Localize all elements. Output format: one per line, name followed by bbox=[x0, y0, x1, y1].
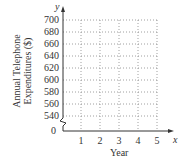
y-axis-symbol: y bbox=[55, 2, 59, 12]
y-tick-640: 640 bbox=[33, 51, 59, 61]
x-tick-5: 5 bbox=[151, 136, 163, 146]
y-tick-700: 700 bbox=[33, 15, 59, 25]
axis-break-icon bbox=[60, 118, 66, 126]
x-tick-3: 3 bbox=[113, 136, 125, 146]
y-axis-arrow-icon bbox=[61, 6, 65, 12]
y-tick-620: 620 bbox=[33, 63, 59, 73]
x-axis-arrow-icon bbox=[168, 129, 174, 133]
origin-label: 0 bbox=[51, 126, 56, 136]
x-axis-label: Year bbox=[110, 148, 128, 158]
x-tick-1: 1 bbox=[75, 136, 87, 146]
y-tick-540: 540 bbox=[33, 111, 59, 121]
y-tick-680: 680 bbox=[33, 27, 59, 37]
y-tick-600: 600 bbox=[33, 75, 59, 85]
x-tick-2: 2 bbox=[94, 136, 106, 146]
y-tick-560: 560 bbox=[33, 99, 59, 109]
grid-lines bbox=[63, 20, 157, 131]
y-tick-660: 660 bbox=[33, 39, 59, 49]
y-tick-580: 580 bbox=[33, 87, 59, 97]
x-tick-4: 4 bbox=[132, 136, 144, 146]
x-axis-symbol: x bbox=[173, 135, 177, 145]
